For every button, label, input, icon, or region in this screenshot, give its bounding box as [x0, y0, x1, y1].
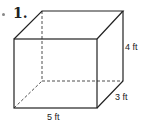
front-face [14, 39, 97, 108]
hidden-edge-diagonal [14, 81, 42, 108]
top-face [14, 11, 123, 39]
width-label: 5 ft [47, 112, 60, 122]
prism-diagram [0, 0, 141, 128]
height-label: 4 ft [125, 42, 138, 52]
depth-label: 3 ft [115, 92, 128, 102]
